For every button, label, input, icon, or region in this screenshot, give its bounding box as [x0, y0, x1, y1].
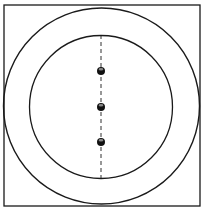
- ring-diagram: [0, 0, 202, 208]
- dot-highlight: [99, 68, 104, 70]
- dot-highlight: [99, 104, 104, 106]
- dot-highlight: [99, 139, 104, 141]
